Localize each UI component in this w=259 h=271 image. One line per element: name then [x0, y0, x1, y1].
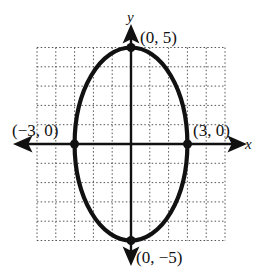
point-top [127, 43, 136, 52]
x-axis-label: x [244, 136, 252, 152]
point-bottom [127, 236, 136, 245]
label-right-vertex: (3, 0) [193, 121, 230, 140]
point-right [183, 140, 192, 149]
point-left [70, 140, 79, 149]
y-axis-up-arrow-icon [125, 27, 137, 41]
label-top-vertex: (0, 5) [140, 28, 177, 47]
x-axis-right-arrow-icon [230, 138, 244, 150]
ellipse-graph: y x (0, 5) (3, 0) (−3, 0) (0, −5) [0, 0, 259, 271]
label-left-vertex: (−3, 0) [12, 121, 58, 140]
y-axis-label: y [125, 9, 134, 25]
axes [16, 27, 244, 263]
label-bottom-vertex: (0, −5) [136, 248, 182, 267]
